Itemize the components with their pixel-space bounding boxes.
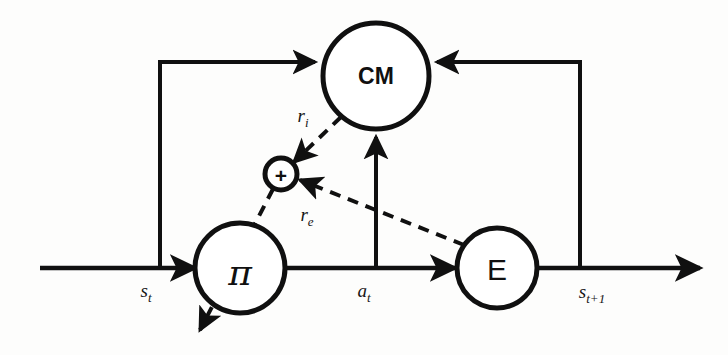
edge-label-extrinsic-reward: re — [300, 204, 313, 229]
diagram-canvas: CM π E + st at s — [0, 0, 728, 355]
svg-text:re: re — [300, 204, 313, 229]
edge-label-action: at — [357, 280, 371, 305]
state-label-base: s — [140, 280, 147, 301]
policy-label: π — [227, 252, 253, 293]
sum-node[interactable]: + — [265, 158, 297, 190]
curiosity-module-label: CM — [358, 63, 394, 89]
diagram-svg: CM π E + st at s — [0, 0, 728, 355]
sum-label: + — [275, 164, 287, 187]
extrinsic-reward-edge — [300, 180, 464, 245]
svg-text:st+1: st+1 — [579, 281, 605, 306]
edge-label-next-state: st+1 — [579, 281, 605, 306]
environment-node[interactable]: E — [457, 228, 537, 308]
curiosity-module-node[interactable]: CM — [323, 23, 429, 129]
extrinsic-reward-label-sub: e — [308, 214, 314, 229]
extrinsic-reward-path — [300, 180, 464, 245]
svg-text:at: at — [357, 280, 371, 305]
environment-label: E — [487, 253, 507, 286]
action-label-base: a — [357, 280, 367, 301]
next-state-label-sub: t+1 — [586, 291, 605, 306]
state-label-sub: t — [148, 290, 152, 305]
svg-text:ri: ri — [297, 105, 308, 130]
action-label-sub: t — [367, 290, 371, 305]
intrinsic-reward-label-sub: i — [305, 115, 309, 130]
svg-text:st: st — [140, 280, 151, 305]
edge-label-state: st — [140, 280, 151, 305]
policy-node[interactable]: π — [195, 223, 285, 313]
next-state-label-base: s — [579, 281, 586, 302]
edge-label-intrinsic-reward: ri — [297, 105, 308, 130]
